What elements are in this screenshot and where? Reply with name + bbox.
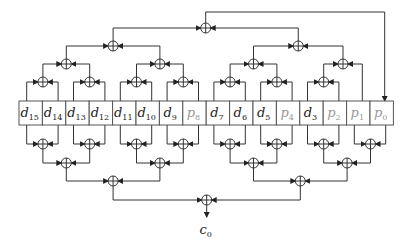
- cell-d9: d9: [159, 101, 182, 125]
- cell-d7: d7: [206, 101, 229, 125]
- xor-top-l1-icon: [272, 77, 282, 87]
- xor-top-l2-icon: [338, 59, 348, 69]
- output-c0-label: c0: [200, 222, 212, 239]
- cell-d13: d13: [66, 101, 89, 125]
- xor-top-root-icon: [201, 23, 211, 33]
- xor-top-l1-icon: [178, 77, 188, 87]
- cell-d15: d15: [19, 101, 42, 125]
- xor-bottom-l1-icon: [178, 139, 188, 149]
- cell-d5: d5: [253, 101, 276, 125]
- xor-bottom-l1-icon: [319, 139, 329, 149]
- xor-top-l3-icon: [293, 41, 303, 51]
- xor-bottom-l1-icon: [225, 139, 235, 149]
- xor-top-l1-icon: [319, 77, 329, 87]
- xor-bottom-l2-icon: [342, 158, 352, 168]
- xor-top-l3-icon: [108, 41, 118, 51]
- xor-parity-diagram: d15d14d13d12d11d10d9p8d7d6d5p4d3p2p1p0 c…: [0, 0, 408, 245]
- xor-top-l1-icon: [225, 77, 235, 87]
- xor-bottom-l2-icon: [155, 158, 165, 168]
- cell-d6: d6: [230, 101, 253, 125]
- xor-bottom-l1-icon: [38, 139, 48, 149]
- xor-bottom-l2-icon: [249, 158, 259, 168]
- xor-top-l1-icon: [38, 77, 48, 87]
- xor-top-l2-icon: [249, 59, 259, 69]
- cell-p4: p4: [276, 101, 299, 125]
- xor-bottom-root-icon: [202, 195, 212, 205]
- cell-d12: d12: [89, 101, 112, 125]
- output-labels: c0: [200, 222, 212, 239]
- xor-bottom-l1-icon: [366, 139, 376, 149]
- xor-top-l1-icon: [85, 77, 95, 87]
- codeword-register: d15d14d13d12d11d10d9p8d7d6d5p4d3p2p1p0: [19, 101, 393, 125]
- xor-top-l2-icon: [61, 59, 71, 69]
- cell-d3: d3: [300, 101, 323, 125]
- cell-p0: p0: [370, 101, 393, 125]
- xor-bottom-l1-icon: [272, 139, 282, 149]
- cell-p1: p1: [347, 101, 370, 125]
- xor-bottom-l1-icon: [85, 139, 95, 149]
- cell-d11: d11: [113, 101, 136, 125]
- xor-top-l1-icon: [132, 77, 142, 87]
- cell-d10: d10: [136, 101, 159, 125]
- xor-bottom-l3-icon: [295, 176, 305, 186]
- xor-top-l2-icon: [155, 59, 165, 69]
- cell-d14: d14: [42, 101, 65, 125]
- xor-bottom-l2-icon: [61, 158, 71, 168]
- xor-bottom-l1-icon: [132, 139, 142, 149]
- cell-p8: p8: [183, 101, 206, 125]
- cell-p2: p2: [323, 101, 346, 125]
- xor-bottom-l3-icon: [108, 176, 118, 186]
